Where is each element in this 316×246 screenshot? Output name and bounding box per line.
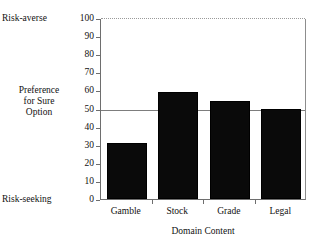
y-tick-mark [96, 200, 100, 201]
y-tick-label: 20 [70, 159, 94, 169]
y-tick-label: 10 [70, 177, 94, 187]
bar-grade [210, 101, 250, 199]
bar-legal [261, 109, 301, 200]
y-tick-label: 0 [70, 195, 94, 205]
x-tick-label: Legal [255, 206, 307, 217]
bar-stock [158, 92, 198, 199]
x-tick-mark [152, 200, 153, 204]
y-tick-label: 60 [70, 86, 94, 96]
y-tick-label: 50 [70, 105, 94, 115]
x-tick-mark [255, 200, 256, 204]
y-tick-label: 30 [70, 141, 94, 151]
x-tick-label: Gamble [100, 206, 152, 217]
y-tick-label: 90 [70, 32, 94, 42]
bar-gamble [107, 143, 147, 199]
plot-area [100, 19, 306, 200]
bar-series [101, 19, 305, 199]
y-tick-label: 80 [70, 50, 94, 60]
x-axis-title: Domain Content [100, 226, 306, 237]
y-tick-label: 100 [70, 14, 94, 24]
bar-chart-figure: Risk-averse Preference for Sure Option R… [0, 0, 316, 246]
x-tick-label: Stock [152, 206, 204, 217]
x-tick-label: Grade [203, 206, 255, 217]
y-tick-label: 70 [70, 68, 94, 78]
x-tick-mark [203, 200, 204, 204]
y-tick-label: 40 [70, 123, 94, 133]
